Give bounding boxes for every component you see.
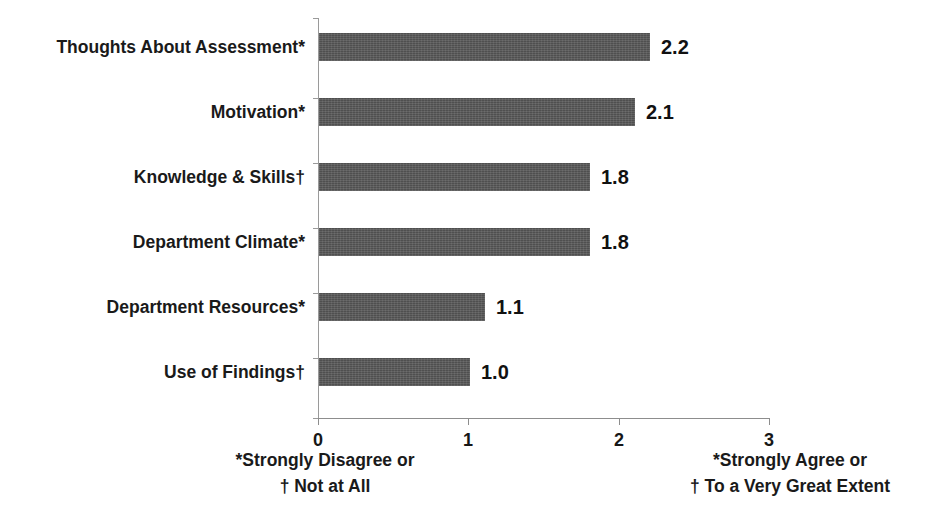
bar — [319, 228, 590, 256]
scale-anchor-high-line1: *Strongly Agree or — [640, 447, 940, 473]
x-axis-tick-label: 2 — [614, 430, 624, 451]
x-axis-tick — [468, 418, 469, 425]
x-axis-tick — [769, 418, 770, 425]
bar — [319, 358, 470, 386]
bar — [319, 293, 485, 321]
bar-value-label: 2.2 — [650, 33, 689, 61]
y-axis-tick — [313, 228, 318, 229]
x-axis-tick — [318, 418, 319, 425]
category-label: Department Resources* — [0, 293, 305, 321]
category-label: Use of Findings† — [0, 358, 305, 386]
bar — [319, 163, 590, 191]
scale-anchor-high: *Strongly Agree or † To a Very Great Ext… — [640, 447, 940, 499]
y-axis-tick — [313, 293, 318, 294]
plot-area: 2.2 2.1 1.8 1.8 1.1 1.0 0 1 2 3 — [318, 18, 770, 418]
x-axis-line — [318, 418, 770, 419]
category-label: Department Climate* — [0, 228, 305, 256]
bar-value-label: 2.1 — [635, 98, 674, 126]
scale-anchor-low: *Strongly Disagree or † Not at All — [200, 447, 450, 499]
x-axis-tick-label: 1 — [463, 430, 473, 451]
scale-anchor-low-line2: † Not at All — [200, 473, 450, 499]
bar-value-label: 1.0 — [470, 358, 509, 386]
category-label: Thoughts About Assessment* — [0, 33, 305, 61]
bar-value-label: 1.8 — [590, 228, 629, 256]
category-label: Motivation* — [0, 98, 305, 126]
scale-anchor-low-line1: *Strongly Disagree or — [200, 447, 450, 473]
y-axis-tick — [313, 98, 318, 99]
x-axis-tick — [619, 418, 620, 425]
category-label: Knowledge & Skills† — [0, 163, 305, 191]
bar — [319, 98, 635, 126]
bar-value-label: 1.8 — [590, 163, 629, 191]
bar-chart: Thoughts About Assessment* Motivation* K… — [0, 0, 950, 530]
scale-anchor-high-line2: † To a Very Great Extent — [640, 473, 940, 499]
y-axis-tick — [313, 18, 318, 19]
y-axis-tick — [313, 358, 318, 359]
bar-value-label: 1.1 — [485, 293, 524, 321]
bar — [319, 33, 650, 61]
y-axis-tick — [313, 163, 318, 164]
